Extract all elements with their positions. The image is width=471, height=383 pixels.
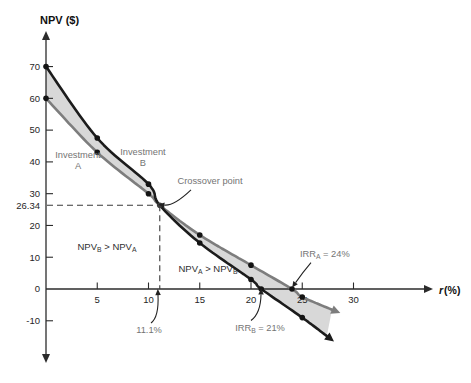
x-tick-label: 10 [143, 294, 154, 305]
y-axis-top-arrow [42, 31, 50, 40]
y-tick-label: 70 [29, 61, 40, 72]
data-point-marker [289, 286, 295, 292]
data-point-marker [43, 96, 49, 102]
irr-b-label: IRRB = 21% [235, 323, 285, 334]
data-point-marker [299, 294, 305, 300]
y-tick-label: 20 [29, 220, 40, 231]
crossover-rate-label: 11.1% [136, 325, 162, 335]
data-point-marker [197, 232, 203, 238]
npv-a-greater-label: NPVA > NPVB [178, 263, 237, 275]
data-point-marker [248, 262, 254, 268]
irr-a-label-arrow [296, 263, 311, 283]
data-point-marker [94, 135, 100, 141]
x-tick-label: 20 [246, 294, 257, 305]
irr-a-label: IRRA = 24% [300, 249, 350, 260]
data-point-marker [299, 315, 305, 321]
data-point-marker [197, 240, 203, 246]
y-tick-label: 40 [29, 156, 40, 167]
data-point-marker [43, 64, 49, 70]
x-axis-arrow [424, 285, 433, 293]
crossover-point-label-arrow [164, 190, 191, 205]
npv-b-greater-label: NPVB > NPVA [77, 241, 136, 253]
npv-profile-chart: NPV ($) r(%) 706050403020100-10510152025… [0, 0, 471, 383]
crossover-npv-label: 26.34 [16, 200, 40, 211]
y-axis-bottom-arrow [42, 354, 50, 363]
y-tick-label: 60 [29, 93, 40, 104]
npv-difference-shaded-region [46, 67, 332, 336]
y-tick-label: 50 [29, 124, 40, 135]
y-tick-label: -10 [26, 315, 40, 326]
y-tick-label: 30 [29, 188, 40, 199]
crossover-point-label: Crossover point [177, 176, 243, 186]
investment-a-label: InvestmentA [55, 150, 101, 171]
x-tick-label: 5 [95, 294, 100, 305]
data-point-marker [146, 181, 152, 187]
irr-a-label-arrowhead [292, 281, 298, 288]
x-tick-label: 30 [348, 294, 359, 305]
y-tick-label: 10 [29, 252, 40, 263]
x-tick-label: 15 [194, 294, 205, 305]
crossover-rate-label-arrowhead [155, 289, 161, 295]
data-point-marker [146, 191, 152, 197]
data-point-marker [248, 277, 254, 283]
y-tick-label: 0 [35, 283, 40, 294]
chart-canvas: 706050403020100-105101520253026.34Invest… [0, 0, 471, 383]
